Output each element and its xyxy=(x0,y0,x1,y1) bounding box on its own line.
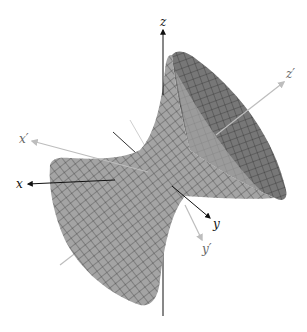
z-axis-label: z xyxy=(159,15,167,29)
z-prime-axis-label: z′ xyxy=(285,67,295,81)
x-axis-back-segment xyxy=(113,132,136,153)
x-prime-axis-back-segment xyxy=(130,120,145,146)
y-prime-axis-label: y′ xyxy=(201,242,212,256)
y-prime-axis xyxy=(185,205,202,240)
x-prime-axis-label: x′ xyxy=(19,132,29,146)
y-axis-label: y xyxy=(212,217,220,231)
x-axis-label: x xyxy=(16,177,23,191)
hyperboloid-diagram: z x y x′ y′ z′ xyxy=(0,0,307,332)
